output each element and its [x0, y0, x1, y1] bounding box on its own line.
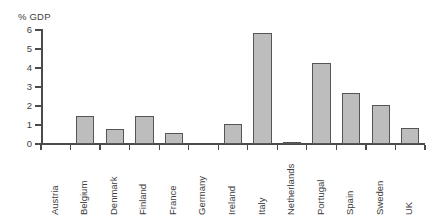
- x-axis-category-label: Spain: [345, 151, 357, 215]
- bars-layer: [41, 25, 425, 144]
- y-axis-tick-label-text: 0: [6, 139, 32, 149]
- x-axis-tick: [395, 145, 396, 150]
- x-axis-tick: [218, 145, 219, 150]
- x-axis-tick: [99, 145, 100, 150]
- bar: [224, 124, 242, 144]
- x-axis-tick: [277, 145, 278, 150]
- y-axis-tick-label-text: 3: [6, 82, 32, 92]
- x-axis-category-label-text: Spain: [345, 191, 355, 215]
- x-axis-category-label: Denmark: [109, 151, 121, 215]
- y-axis-tick-label: 1: [0, 120, 32, 130]
- x-axis-tick: [306, 145, 307, 150]
- x-axis-category-label-text: France: [168, 185, 178, 215]
- x-axis-tick: [336, 145, 337, 150]
- y-axis-tick-label: 2: [0, 101, 32, 111]
- bar: [401, 128, 419, 144]
- y-axis-tick-label-text: 6: [6, 25, 32, 35]
- x-axis-category-label-text: Finland: [138, 184, 148, 215]
- x-axis-category-label-text: Portugal: [316, 180, 326, 215]
- bar: [165, 133, 183, 144]
- bar: [283, 142, 301, 144]
- x-axis-category-label: France: [168, 151, 180, 215]
- x-axis-tick: [129, 145, 130, 150]
- x-axis-category-label-text: Belgium: [79, 181, 89, 215]
- x-axis-category-label-text: Denmark: [109, 176, 119, 215]
- x-axis-tick: [40, 145, 41, 150]
- x-axis-category-label-text: Ireland: [227, 186, 237, 215]
- x-axis-category-label-text: Austria: [50, 185, 60, 215]
- x-axis-tick: [365, 145, 366, 150]
- x-axis-category-label: Ireland: [227, 151, 239, 215]
- x-axis-tick: [424, 145, 425, 150]
- y-axis-title: % GDP: [18, 11, 51, 22]
- y-axis-tick-label: 6: [0, 25, 32, 35]
- x-axis-tick: [188, 145, 189, 150]
- x-axis-category-label-text: Sweden: [375, 181, 385, 215]
- bar: [312, 63, 330, 144]
- x-axis-tick: [159, 145, 160, 150]
- x-axis-category-label-text: Germany: [197, 176, 207, 215]
- bar: [342, 93, 360, 144]
- y-axis-tick-label: 3: [0, 82, 32, 92]
- bar: [106, 129, 124, 144]
- bar: [135, 116, 153, 145]
- x-axis-category-label: Sweden: [375, 151, 387, 215]
- x-axis-category-label-text: Italy: [257, 198, 267, 215]
- bar: [253, 33, 271, 144]
- y-axis-tick-label: 5: [0, 44, 32, 54]
- x-axis-category-label: Finland: [138, 151, 150, 215]
- x-axis-category-label: Netherlands: [286, 151, 298, 215]
- bar: [372, 105, 390, 144]
- y-axis-tick-label-text: 5: [6, 44, 32, 54]
- x-axis-category-label: UK: [404, 151, 416, 215]
- x-axis-category-labels: AustriaBelgiumDenmarkFinlandFranceGerman…: [41, 151, 425, 218]
- x-axis-category-label: Germany: [197, 151, 209, 215]
- bar-chart-figure: % GDP 0123456 AustriaBelgiumDenmarkFinla…: [0, 0, 430, 218]
- y-axis-tick-label: 0: [0, 139, 32, 149]
- y-axis-tick-label-text: 1: [6, 120, 32, 130]
- y-axis-tick-label: 4: [0, 63, 32, 73]
- y-axis-tick-label-text: 2: [6, 101, 32, 111]
- x-axis-category-label: Portugal: [316, 151, 328, 215]
- x-axis-category-label: Italy: [257, 151, 269, 215]
- bar: [76, 116, 94, 145]
- x-axis-tick: [247, 145, 248, 150]
- x-axis-category-label: Belgium: [79, 151, 91, 215]
- x-axis-category-label-text: Netherlands: [286, 164, 296, 215]
- x-axis-category-label: Austria: [50, 151, 62, 215]
- y-axis-tick-label-text: 4: [6, 63, 32, 73]
- x-axis-tick: [70, 145, 71, 150]
- clipped-caption-strip: [0, 0, 430, 2]
- x-axis-category-label-text: UK: [404, 202, 414, 215]
